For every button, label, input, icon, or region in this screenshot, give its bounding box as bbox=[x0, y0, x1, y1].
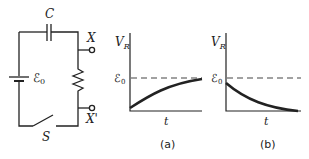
graph-b-y-sub: R bbox=[219, 42, 226, 51]
wire-left-bottom bbox=[19, 82, 33, 126]
graph-b-level-sub: 0 bbox=[218, 78, 222, 86]
terminal-x bbox=[89, 47, 94, 52]
resistor bbox=[73, 66, 83, 108]
graph-b-x-label: t bbox=[264, 115, 269, 128]
terminal-x-label: X bbox=[86, 31, 96, 45]
graph-a-axes bbox=[130, 33, 202, 111]
switch-blade bbox=[33, 115, 53, 126]
graph-a-caption: (a) bbox=[160, 138, 175, 151]
terminal-x-prime bbox=[89, 105, 94, 110]
graph-a-x-label: t bbox=[164, 115, 169, 128]
wire-top-right bbox=[51, 32, 78, 66]
graph-a-level-label: ℰ0 bbox=[114, 72, 125, 86]
graph-b-curve bbox=[226, 83, 298, 111]
graph-b-level-label: ℰ0 bbox=[211, 72, 222, 86]
emf-symbol: ℰ bbox=[33, 71, 40, 85]
circuit-labels: C ℰ0 X X' S bbox=[33, 7, 98, 144]
graph-a-level-symbol: ℰ bbox=[114, 72, 121, 85]
graph-a-level-sub: 0 bbox=[121, 78, 125, 86]
graph-a: VR ℰ0 t (a) bbox=[114, 33, 202, 151]
circuit bbox=[9, 24, 95, 126]
graph-b-axes bbox=[226, 33, 301, 111]
graph-a-y-sub: R bbox=[123, 42, 130, 51]
graph-a-y-label: VR bbox=[115, 35, 130, 51]
rc-circuit-diagram: C ℰ0 X X' S VR ℰ0 t (a) VR ℰ0 t (b) bbox=[0, 0, 309, 159]
graph-b-caption: (b) bbox=[260, 138, 276, 151]
graph-b-level-symbol: ℰ bbox=[211, 72, 218, 85]
switch-label: S bbox=[42, 130, 50, 144]
terminal-x-prime-label: X' bbox=[85, 112, 98, 126]
emf-subscript: 0 bbox=[40, 77, 45, 86]
graph-b: VR ℰ0 t (b) bbox=[211, 33, 301, 151]
capacitor-label: C bbox=[45, 7, 54, 21]
graph-a-curve bbox=[130, 79, 202, 108]
wire-bottom bbox=[56, 108, 78, 126]
graph-b-y-label: VR bbox=[211, 35, 226, 51]
emf-label: ℰ0 bbox=[33, 71, 45, 86]
